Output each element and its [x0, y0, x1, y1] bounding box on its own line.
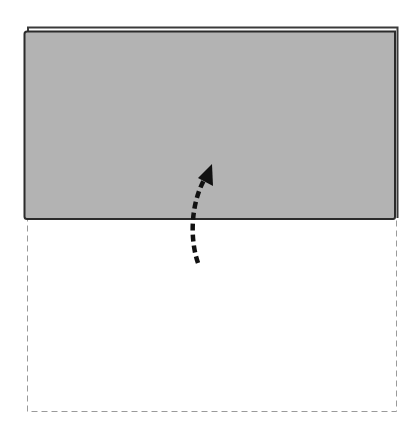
fold-diagram [0, 0, 419, 435]
folded-panel [25, 32, 396, 220]
dashed-outline [28, 220, 397, 412]
